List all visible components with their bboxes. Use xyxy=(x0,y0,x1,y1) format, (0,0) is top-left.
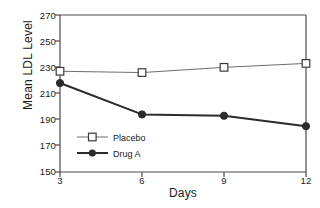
data-point xyxy=(302,60,310,68)
axes-frame xyxy=(60,15,306,172)
data-point xyxy=(56,67,64,75)
series-drug-a xyxy=(56,79,309,129)
legend-marker xyxy=(89,133,97,141)
data-point xyxy=(56,79,63,86)
series-placebo xyxy=(56,60,310,77)
data-point xyxy=(302,123,309,130)
chart-figure: Mean LDL Level 270 250 230 210 190 170 1… xyxy=(0,0,320,208)
legend-markers xyxy=(77,133,108,156)
data-point xyxy=(138,111,145,118)
data-point xyxy=(220,112,227,119)
x-axis-ticks xyxy=(60,172,306,177)
data-point xyxy=(220,64,228,72)
y-axis-ticks xyxy=(55,15,60,172)
data-series-layer xyxy=(56,60,310,130)
data-point xyxy=(138,69,146,77)
plot-area xyxy=(0,0,320,208)
legend-marker xyxy=(89,149,96,156)
